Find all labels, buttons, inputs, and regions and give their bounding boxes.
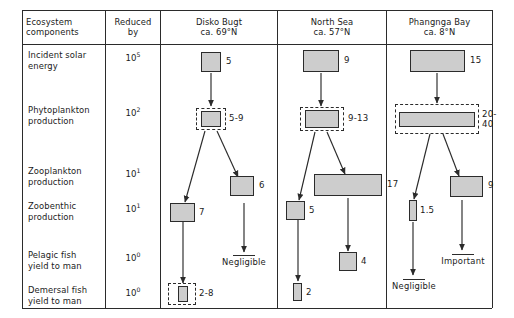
value-phangnga-phyto: 20- 40	[482, 110, 497, 129]
box-phangnga-zooplankton	[450, 176, 483, 197]
arrow-layer	[0, 0, 514, 318]
terminal-bar	[452, 254, 474, 255]
value-disko-zooplankton: 6	[259, 181, 265, 191]
box-northsea-pelagic	[339, 252, 357, 271]
terminal-text: Negligible	[222, 257, 266, 267]
box-disko-zoobenthic	[170, 203, 195, 222]
diagram-canvas: Ecosystem components Reduced by Disko Bu…	[0, 0, 514, 318]
terminal-bar	[403, 279, 425, 280]
box-northsea-zoobenthic	[286, 201, 305, 220]
box-northsea-phyto	[305, 110, 339, 128]
terminal-disko-pelagic: Negligible	[214, 255, 274, 267]
value-disko-phyto: 5-9	[229, 114, 244, 124]
value-phangnga-zooplankton: 9	[488, 181, 494, 191]
value-northsea-pelagic: 4	[361, 257, 367, 267]
box-northsea-zooplankton	[314, 174, 382, 196]
value-northsea-phyto: 9-13	[348, 114, 368, 124]
value-disko-demersal: 2-8	[199, 289, 214, 299]
box-disko-zooplankton	[230, 176, 254, 196]
terminal-text: Important	[441, 256, 484, 266]
box-phangnga-phyto	[399, 112, 475, 127]
terminal-phangnga-pelagic: Important	[432, 254, 494, 266]
terminal-text: Negligible	[392, 281, 436, 291]
value-disko-solar: 5	[226, 57, 232, 67]
terminal-bar	[233, 255, 255, 256]
box-disko-demersal	[178, 286, 188, 302]
box-northsea-solar	[303, 50, 339, 72]
value-northsea-zooplankton: 17	[387, 180, 398, 190]
box-disko-solar	[201, 52, 221, 72]
box-northsea-demersal	[293, 283, 302, 301]
value-northsea-solar: 9	[344, 56, 350, 66]
box-disko-phyto	[201, 111, 221, 127]
box-phangnga-zoobenthic	[409, 200, 417, 221]
value-northsea-zoobenthic: 5	[309, 206, 315, 216]
value-disko-zoobenthic: 7	[199, 208, 205, 218]
value-phangnga-solar: 15	[470, 56, 481, 66]
value-northsea-demersal: 2	[306, 288, 312, 298]
terminal-phangnga-demersal: Negligible	[383, 279, 445, 291]
box-phangnga-solar	[410, 50, 465, 72]
value-phangnga-zoobenthic: 1.5	[420, 206, 434, 216]
